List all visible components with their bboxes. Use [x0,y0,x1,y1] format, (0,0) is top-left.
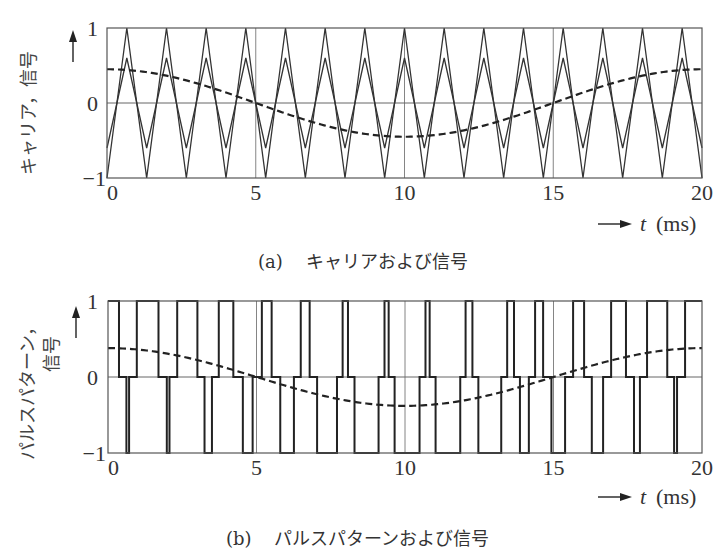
panel-a-xlabel: t (ms) [598,211,696,236]
panel-a-ylabel: キャリア，信号 [18,51,39,175]
panel-b-ylabel-line1: パルスパターン， [17,318,38,460]
xtick-label: 5 [250,180,261,205]
panel-b-ytick-0: 0 [87,365,98,390]
right-arrow-head-icon [620,220,632,228]
figure: 1 0 −1 05101520 キャリア，信号 t (ms) (a) キャリアお… [0,0,726,557]
xtick-label: 0 [107,180,118,205]
xtick-label: 20 [691,455,713,480]
panel-a-caption-label: (a) [258,251,283,272]
panel-b-xlabel-t: t [640,484,647,509]
panel-a-up-arrow-icon [69,30,77,62]
panel-a-xlabel-unit: (ms) [656,211,696,236]
panel-b-ylabel-2: 信号 [41,336,62,372]
xtick-label: 15 [543,455,565,480]
xtick-label: 15 [542,180,564,205]
panel-a-carrier-and-signal: 1 0 −1 05101520 キャリア，信号 t (ms) (a) キャリアお… [18,16,713,272]
panel-b-xlabel: t (ms) [598,484,696,509]
panel-b-caption-label: (b) [226,528,252,549]
panel-b-ylabel-line2: 信号 [41,336,62,372]
panel-b-pulse-pattern-and-signal: 1 0 −1 05101520 パルスパターン， 信号 t (ms) (b) パ… [17,289,713,549]
panel-a-ytick-minus1: −1 [83,166,106,191]
panel-a-ylabel-text: キャリア，信号 [18,51,39,175]
panel-a-caption-text: キャリアおよび信号 [306,251,468,272]
panel-b-ylabel: パルスパターン， [17,318,38,460]
panel-b-ytick-minus1: −1 [83,441,106,466]
right-arrow-head-icon [620,493,632,501]
panel-b-ytick-1: 1 [87,289,98,314]
panel-a-ytick-0: 0 [87,91,98,116]
panel-a-xlabel-t: t [640,211,647,236]
panel-b-xlabel-unit: (ms) [656,484,696,509]
panel-b-xtick-labels: 05101520 [108,455,713,480]
xtick-label: 10 [394,455,416,480]
panel-a-xtick-labels: 05101520 [107,180,713,205]
panel-a-ytick-1: 1 [87,16,98,41]
xtick-label: 5 [251,455,262,480]
xtick-label: 20 [691,180,713,205]
xtick-label: 10 [394,180,416,205]
panel-b-caption-text: パルスパターンおよび信号 [274,528,489,549]
xtick-label: 0 [108,455,119,480]
panel-b-up-arrow-icon [72,306,80,338]
